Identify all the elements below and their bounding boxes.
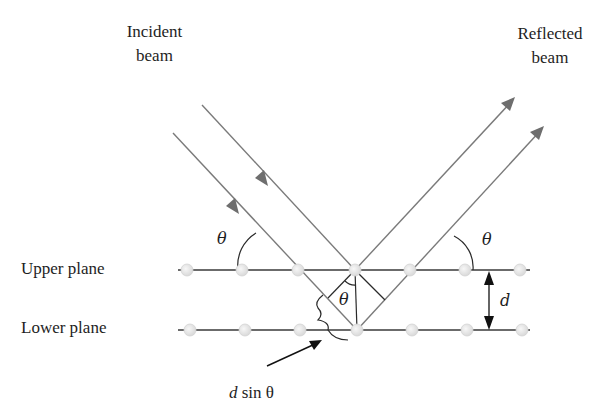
atom <box>351 324 363 336</box>
atom <box>406 324 418 336</box>
reflected-beam-label: Reflected beam <box>505 24 595 68</box>
vertical-spacing-line <box>355 270 357 330</box>
arrow-down-icon <box>484 316 494 330</box>
atom <box>349 264 361 276</box>
atom <box>461 324 473 336</box>
atom <box>239 324 251 336</box>
spacing-arrow <box>484 271 494 330</box>
theta-inner-label: θ <box>339 290 349 310</box>
theta-right-label: θ <box>482 230 492 250</box>
spacing-d-label: d <box>500 291 510 311</box>
upper-plane-label: Upper plane <box>21 259 105 279</box>
path-difference-sin-theta: sin θ <box>242 383 274 402</box>
atom <box>514 264 526 276</box>
path-difference-d: d <box>229 383 238 402</box>
atom <box>292 264 304 276</box>
atom <box>236 264 248 276</box>
atom <box>181 264 193 276</box>
atom <box>294 324 306 336</box>
incident-label-line1: Incident <box>112 22 197 42</box>
lower-plane-label: Lower plane <box>21 318 106 338</box>
arrowhead-icon <box>530 126 544 140</box>
arrowhead-icon <box>255 170 268 186</box>
atom <box>404 264 416 276</box>
atom <box>459 264 471 276</box>
arrowhead-icon <box>226 198 239 214</box>
reflected-label-line1: Reflected <box>505 24 595 44</box>
pointer-arrowhead-icon <box>309 340 322 350</box>
inner-theta-arc <box>345 281 356 285</box>
arrow-up-icon <box>484 271 494 285</box>
incident-beam-2 <box>173 133 357 330</box>
path-difference-pointer <box>267 340 322 366</box>
path-difference-label: d sin θ <box>229 383 274 403</box>
reflected-beams <box>355 97 544 330</box>
bragg-diagram: Incident beam Reflected beam Upper plane… <box>0 0 606 404</box>
incident-beam-label: Incident beam <box>112 22 197 66</box>
theta-left-label: θ <box>217 229 227 249</box>
atom <box>184 324 196 336</box>
incident-label-line2: beam <box>112 46 197 66</box>
reflected-label-line2: beam <box>505 48 595 68</box>
atom <box>516 324 528 336</box>
arrowhead-icon <box>501 97 515 111</box>
